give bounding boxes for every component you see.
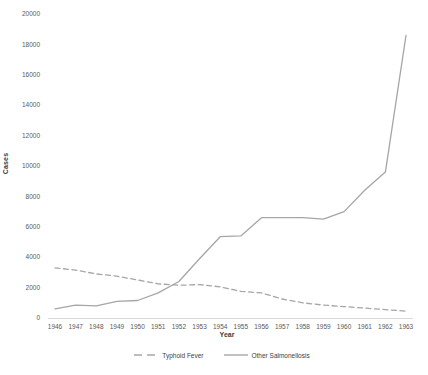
legend-item-other-salmonellosis: Other Salmonellosis [224,352,310,359]
solid-line-sample-icon [224,352,248,358]
x-tick-label: 1947 [68,323,83,330]
x-tick-label: 1962 [378,323,393,330]
y-tick-label: 10000 [22,162,40,169]
y-tick-label: 8000 [26,193,41,200]
y-tick-label: 12000 [22,132,40,139]
x-tick-label: 1955 [234,323,249,330]
x-tick-label: 1961 [357,323,372,330]
y-axis-title: Cases [2,139,9,189]
y-tick-label: 2000 [26,284,41,291]
x-tick-label: 1948 [89,323,104,330]
x-tick-label: 1959 [316,323,331,330]
legend-label-other-salmonellosis: Other Salmonellosis [252,352,310,359]
x-tick-label: 1952 [172,323,187,330]
x-tick-label: 1956 [254,323,269,330]
y-tick-label: 16000 [22,71,40,78]
y-tick-label: 4000 [26,253,41,260]
y-tick-label: 14000 [22,101,40,108]
y-tick-label: 20000 [22,10,40,17]
x-tick-label: 1953 [192,323,207,330]
legend: Typhoid Fever Other Salmonellosis [0,348,428,362]
x-tick-label: 1950 [130,323,145,330]
x-tick-label: 1951 [151,323,166,330]
x-axis-title: Year [197,331,257,338]
series-line-typhoid-fever [55,268,406,311]
x-tick-label: 1957 [275,323,290,330]
chart: 0200040006000800010000120001400016000180… [0,0,428,375]
x-tick-label: 1949 [110,323,125,330]
legend-label-typhoid-fever: Typhoid Fever [162,352,203,359]
x-tick-label: 1958 [296,323,311,330]
x-tick-label: 1963 [399,323,414,330]
x-tick-label: 1960 [337,323,352,330]
x-tick-label: 1946 [48,323,63,330]
y-tick-label: 6000 [26,223,41,230]
dashed-line-sample-icon [134,352,158,358]
line-chart-plot: 0200040006000800010000120001400016000180… [0,0,428,375]
series-line-other-salmonellosis [55,35,406,309]
y-tick-label: 18000 [22,41,40,48]
legend-item-typhoid-fever: Typhoid Fever [134,352,203,359]
x-tick-label: 1954 [213,323,228,330]
y-tick-label: 0 [36,314,40,321]
